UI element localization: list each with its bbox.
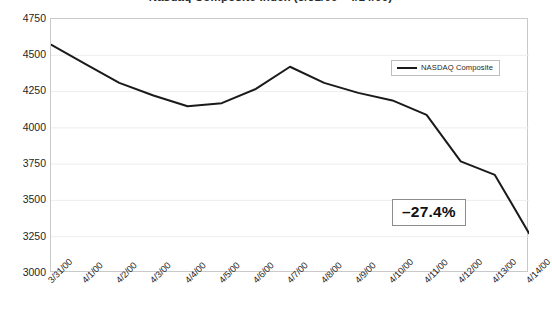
- chart-title: Nasdaq Composite Index (3/31/00 - 4/14/0…: [0, 0, 541, 3]
- y-axis-tick: 3250: [2, 231, 46, 241]
- y-axis-tick: 4250: [2, 85, 46, 95]
- legend-label-nasdaq-composite: NASDAQ Composite: [421, 63, 493, 72]
- y-axis: 4750 4500 4250 4000 3750 3500 3250 3000: [0, 0, 46, 315]
- percent-change-callout: –27.4%: [392, 199, 466, 226]
- y-axis-tick: 3500: [2, 194, 46, 204]
- legend-line-swatch: [397, 67, 417, 69]
- y-axis-tick: 3750: [2, 158, 46, 168]
- plot-canvas: [51, 19, 529, 273]
- y-axis-tick: 4000: [2, 122, 46, 132]
- percent-change-value: –27.4%: [402, 203, 456, 220]
- y-axis-tick: 4750: [2, 13, 46, 23]
- legend: NASDAQ Composite: [391, 60, 500, 76]
- y-axis-tick: 4500: [2, 49, 46, 59]
- plot-area: NASDAQ Composite: [50, 18, 528, 272]
- x-axis: 3/31/004/1/004/2/004/3/004/4/004/5/004/6…: [0, 272, 541, 315]
